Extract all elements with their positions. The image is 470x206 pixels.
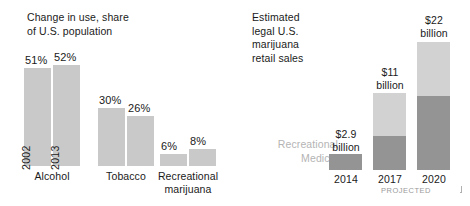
bar-value-marijuana-2002: 6% (161, 140, 177, 152)
bar-2020 (417, 42, 450, 170)
bar-value-alcohol-2002: 51% (25, 54, 47, 66)
bar-marijuana-2002 (160, 154, 187, 166)
bar-year-2020: 2020 (408, 173, 460, 185)
group-label-alcohol: Alcohol (14, 170, 90, 183)
projected-label: PROJECTED (352, 186, 460, 195)
change-in-use-chart: Change in use, share of U.S. population … (0, 0, 240, 206)
bar-2017-medical-segment (373, 136, 406, 170)
bar-tobacco-2013 (127, 116, 154, 166)
bar-marijuana-2013 (189, 149, 216, 166)
bar-value-marijuana-2013: 8% (190, 135, 206, 147)
group-label-marijuana: Recreational marijuana (150, 170, 226, 195)
retail-sales-chart: Estimated legal U.S. marijuana retail sa… (240, 0, 470, 206)
right-chart-title: Estimated legal U.S. marijuana retail sa… (252, 11, 342, 65)
bar-year-alcohol-2002: 2002 (20, 145, 32, 170)
bar-2020-medical-segment (417, 96, 450, 170)
legend-label-medical: Medical (240, 152, 338, 166)
bar-2014 (329, 154, 362, 170)
bar-2020-recreational-segment (417, 42, 450, 96)
bar-2017 (373, 93, 406, 170)
projected-annotation: PROJECTED (352, 186, 460, 200)
bar-value-tobacco-2013: 26% (128, 102, 150, 114)
bar-year-alcohol-2013: 2013 (49, 145, 61, 170)
bar-tobacco-2002 (98, 108, 125, 166)
bar-value-alcohol-2013: 52% (54, 51, 76, 63)
bar-value-tobacco-2002: 30% (99, 94, 121, 106)
left-chart-title: Change in use, share of U.S. population (27, 11, 187, 38)
bar-2017-recreational-segment (373, 93, 406, 136)
bar-value-2020: $22 billion (408, 14, 460, 40)
bar-value-2014: $2.9 billion (320, 128, 372, 154)
bar-value-2017: $11 billion (364, 66, 416, 92)
bar-2014-medical-segment (329, 154, 362, 170)
